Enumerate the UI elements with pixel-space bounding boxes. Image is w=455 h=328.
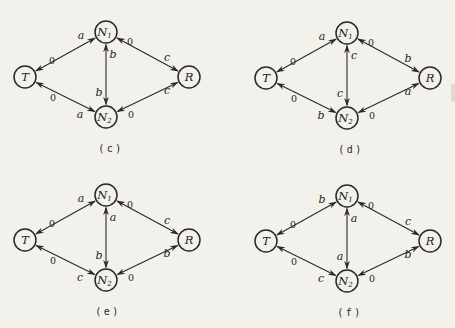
edge-label-b: b <box>95 86 102 99</box>
scanned-figure-page: 0a0c0a0cbbTN1N2R0a0b0b0accTN1N2R0a0c0c0b… <box>0 0 455 328</box>
diagrams-root: 0a0c0a0cbbTN1N2R0a0b0b0accTN1N2R0a0c0c0b… <box>14 21 441 292</box>
scan-smudge <box>451 84 455 102</box>
edge-label-b: b <box>109 48 116 61</box>
caption-d: (d) <box>338 144 364 155</box>
edge-label-a: a <box>405 85 412 98</box>
edge-label-0: 0 <box>368 37 374 48</box>
edge-label-c: c <box>337 87 343 100</box>
node-label-T: T <box>262 71 271 85</box>
edge-label-0: 0 <box>127 199 133 210</box>
edge-label-0: 0 <box>50 92 56 103</box>
node-label-R: R <box>184 233 194 247</box>
node-label-T: T <box>262 234 271 248</box>
edge-label-a: a <box>351 212 358 225</box>
edge-T-N2 <box>277 247 336 276</box>
edge-label-a: a <box>319 30 326 43</box>
caption-c: (c) <box>98 143 124 154</box>
edge-T-N2 <box>277 84 336 113</box>
edge-T-N2 <box>36 246 95 275</box>
edge-label-a: a <box>110 211 117 224</box>
node-label-R: R <box>184 70 194 84</box>
edge-label-0: 0 <box>49 218 55 229</box>
edge-label-0: 0 <box>290 56 296 67</box>
edge-T-N2 <box>36 83 95 112</box>
edge-label-0: 0 <box>128 272 134 283</box>
edge-T-N1 <box>36 38 95 71</box>
edge-label-a: a <box>77 108 84 121</box>
edge-T-N1 <box>36 201 95 234</box>
edge-label-0: 0 <box>127 36 133 47</box>
edge-label-b: b <box>317 109 324 122</box>
edge-label-0: 0 <box>49 55 55 66</box>
edge-label-c: c <box>164 84 170 97</box>
edge-label-0: 0 <box>369 273 375 284</box>
edge-label-c: c <box>405 215 411 228</box>
edge-label-0: 0 <box>368 200 374 211</box>
edge-label-c: c <box>164 51 170 64</box>
edge-label-a: a <box>337 250 344 263</box>
edge-label-0: 0 <box>128 109 134 120</box>
edge-label-b: b <box>404 248 411 261</box>
diagram-e: 0a0c0c0babTN1N2R <box>14 184 200 291</box>
node-label-R: R <box>425 234 435 248</box>
edge-label-b: b <box>163 247 170 260</box>
edge-T-N1 <box>277 39 336 72</box>
diagram-f: 0b0c0c0baaTN1N2R <box>255 185 441 292</box>
edge-label-0: 0 <box>291 93 297 104</box>
edge-label-b: b <box>318 193 325 206</box>
node-label-T: T <box>21 70 30 84</box>
edge-label-0: 0 <box>50 255 56 266</box>
edge-label-c: c <box>318 272 324 285</box>
edge-T-N1 <box>277 202 336 235</box>
edge-label-a: a <box>78 192 85 205</box>
graph-figure: 0a0c0a0cbbTN1N2R0a0b0b0accTN1N2R0a0c0c0b… <box>0 0 455 328</box>
edge-label-0: 0 <box>291 256 297 267</box>
diagram-d: 0a0b0b0accTN1N2R <box>255 22 441 129</box>
node-label-T: T <box>21 233 30 247</box>
edge-label-c: c <box>164 214 170 227</box>
edge-label-c: c <box>351 49 357 62</box>
edge-label-0: 0 <box>290 219 296 230</box>
diagram-c: 0a0c0a0cbbTN1N2R <box>14 21 200 128</box>
caption-f: (f) <box>337 307 363 318</box>
node-label-R: R <box>425 71 435 85</box>
edge-label-b: b <box>95 249 102 262</box>
edge-label-a: a <box>78 29 85 42</box>
edge-label-0: 0 <box>369 110 375 121</box>
edge-label-b: b <box>404 52 411 65</box>
edge-label-c: c <box>77 271 83 284</box>
caption-e: (e) <box>95 306 121 317</box>
